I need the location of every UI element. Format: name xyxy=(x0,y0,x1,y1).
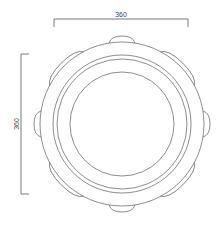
ring-inner-circle xyxy=(57,59,187,189)
height-dimension-label: 360 xyxy=(13,118,20,130)
technical-drawing: 360 360 xyxy=(0,0,224,240)
outer-body-circle xyxy=(40,42,204,206)
ring-part xyxy=(34,36,210,212)
width-dimension: 360 xyxy=(54,11,188,27)
height-dimension: 360 xyxy=(13,54,29,194)
width-dimension-label: 360 xyxy=(115,11,127,18)
lugs xyxy=(34,36,210,212)
inner-opening-circle xyxy=(70,72,174,176)
ring-outer-circle xyxy=(53,55,191,193)
